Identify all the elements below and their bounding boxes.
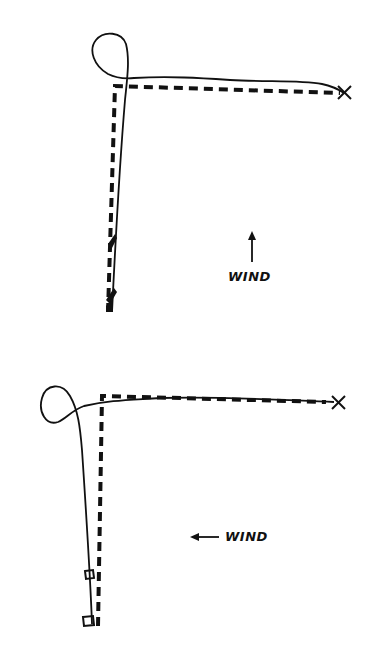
actual-track-solid	[41, 386, 334, 624]
vehicle-marker-icon	[83, 570, 94, 626]
diagram-bottom: WIND	[0, 330, 367, 661]
wind-label-bottom: WIND	[225, 530, 268, 543]
wind-arrow-up-icon	[248, 231, 256, 262]
wind-arrow-left-icon	[190, 533, 219, 541]
intended-path-dashed	[98, 396, 326, 626]
diagram-top-drawing	[0, 0, 367, 330]
intended-path-dashed	[108, 86, 340, 312]
actual-track-solid	[92, 34, 344, 312]
diagram-bottom-drawing	[0, 330, 367, 661]
diagram-top: WIND	[0, 0, 367, 330]
wind-label-top: WIND	[228, 270, 271, 283]
